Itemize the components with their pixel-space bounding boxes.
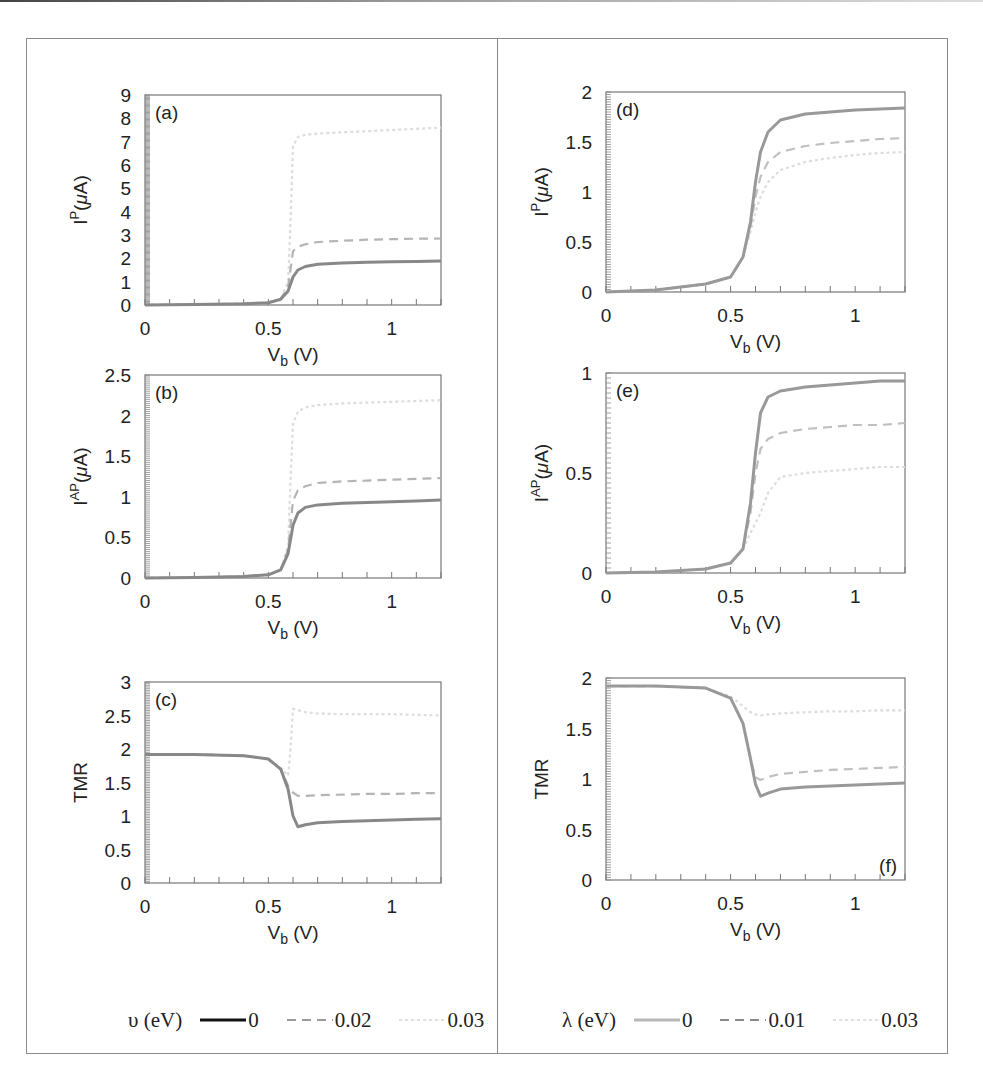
y-tick-label: 1 bbox=[120, 487, 131, 508]
legend-label: 0.03 bbox=[881, 1008, 918, 1033]
legend-title: λ (eV) bbox=[562, 1008, 616, 1033]
x-tick-label: 0.5 bbox=[717, 586, 743, 607]
legend-left: υ (eV) 00.020.03 bbox=[128, 1005, 510, 1035]
y-axis-title: TMR bbox=[531, 758, 552, 799]
legend-entry: 0 bbox=[632, 1008, 693, 1033]
legend-label: 0 bbox=[248, 1008, 259, 1033]
chart-panel-f: 00.5100.511.52Vb (V)TMR(f) bbox=[526, 666, 913, 950]
x-tick-label: 0 bbox=[601, 893, 612, 914]
y-tick-label: 2.5 bbox=[105, 365, 131, 386]
y-tick-label: 0 bbox=[120, 295, 131, 316]
x-tick-label: 0 bbox=[140, 896, 151, 917]
y-tick-label: 6 bbox=[120, 155, 131, 176]
chart-panel-c: 00.5100.511.522.53Vb (V)TMR(c) bbox=[65, 670, 449, 953]
y-tick-label: 0.5 bbox=[105, 527, 131, 548]
x-tick-label: 0 bbox=[140, 318, 151, 339]
chart-panel-a: 00.510123456789Vb (V)IP(μA)(a) bbox=[65, 83, 449, 375]
y-tick-label: 1 bbox=[581, 769, 592, 790]
y-tick-label: 5 bbox=[120, 178, 131, 199]
legend-swatch-icon bbox=[285, 1015, 335, 1025]
panel-label: (a) bbox=[155, 102, 178, 123]
x-tick-label: 0.5 bbox=[255, 591, 281, 612]
x-tick-label: 0 bbox=[140, 591, 151, 612]
y-tick-label: 0 bbox=[120, 873, 131, 894]
y-axis-title: IAP(μA) bbox=[67, 447, 91, 505]
chart-panel-e: 00.5100.51Vb (V)IAP(μA)(e) bbox=[526, 361, 913, 643]
x-tick-label: 1 bbox=[386, 318, 397, 339]
legend-swatch-icon bbox=[831, 1015, 881, 1025]
y-tick-label: 1 bbox=[120, 272, 131, 293]
x-axis-title: Vb (V) bbox=[730, 919, 781, 944]
y-tick-label: 4 bbox=[120, 202, 131, 223]
y-tick-label: 0 bbox=[581, 870, 592, 891]
x-tick-label: 0.5 bbox=[255, 896, 281, 917]
x-tick-label: 0.5 bbox=[717, 893, 743, 914]
legend-entry: 0.03 bbox=[397, 1008, 484, 1033]
x-tick-label: 1 bbox=[386, 591, 397, 612]
x-tick-label: 1 bbox=[850, 305, 861, 326]
x-axis-title: Vb (V) bbox=[730, 612, 781, 637]
panel-label: (d) bbox=[616, 99, 639, 120]
y-tick-label: 1 bbox=[581, 363, 592, 384]
y-tick-label: 2 bbox=[120, 248, 131, 269]
y-tick-label: 3 bbox=[120, 672, 131, 693]
legend-right: λ (eV) 00.010.03 bbox=[562, 1005, 944, 1035]
chart-panel-d: 00.5100.511.52Vb (V)IP(μA)(d) bbox=[526, 80, 913, 362]
y-tick-label: 8 bbox=[120, 108, 131, 129]
plot-area bbox=[606, 373, 905, 573]
legend-entry: 0.02 bbox=[285, 1008, 372, 1033]
legend-label: 0 bbox=[682, 1008, 693, 1033]
y-tick-label: 2 bbox=[581, 82, 592, 103]
plot-area bbox=[145, 375, 441, 578]
x-tick-label: 1 bbox=[386, 896, 397, 917]
y-tick-label: 0.5 bbox=[566, 820, 592, 841]
legend-swatch-icon bbox=[632, 1015, 682, 1025]
y-tick-label: 0 bbox=[581, 563, 592, 584]
y-tick-label: 0 bbox=[581, 282, 592, 303]
y-tick-label: 1 bbox=[120, 806, 131, 827]
x-tick-label: 1 bbox=[850, 893, 861, 914]
x-tick-label: 0 bbox=[601, 586, 612, 607]
column-divider bbox=[497, 38, 498, 1054]
y-tick-label: 1.5 bbox=[105, 446, 131, 467]
y-tick-label: 2 bbox=[120, 739, 131, 760]
legend-label: 0.01 bbox=[768, 1008, 805, 1033]
y-tick-label: 2 bbox=[120, 406, 131, 427]
legend-entry: 0.01 bbox=[718, 1008, 805, 1033]
legend-entry: 0 bbox=[198, 1008, 259, 1033]
legend-label: 0.02 bbox=[335, 1008, 372, 1033]
plot-area bbox=[145, 682, 441, 883]
y-axis-title: IP(μA) bbox=[67, 175, 91, 225]
y-axis-title: IP(μA) bbox=[528, 167, 552, 217]
y-tick-label: 2.5 bbox=[105, 706, 131, 727]
x-axis-title: Vb (V) bbox=[267, 922, 318, 947]
legend-entry: 0.03 bbox=[831, 1008, 918, 1033]
chart-panel-b: 00.5100.511.522.5Vb (V)IAP(μA)(b) bbox=[65, 363, 449, 648]
y-tick-label: 7 bbox=[120, 132, 131, 153]
x-axis-title: Vb (V) bbox=[267, 617, 318, 642]
top-edge-line bbox=[0, 0, 983, 2]
y-tick-label: 2 bbox=[581, 668, 592, 689]
y-tick-label: 0.5 bbox=[105, 840, 131, 861]
x-axis-title: Vb (V) bbox=[730, 331, 781, 356]
plot-area bbox=[145, 95, 441, 305]
y-axis-title: TMR bbox=[70, 762, 91, 803]
legend-label: 0.03 bbox=[447, 1008, 484, 1033]
x-tick-label: 0.5 bbox=[255, 318, 281, 339]
panel-label: (c) bbox=[155, 689, 177, 710]
legend-swatch-icon bbox=[397, 1015, 447, 1025]
y-tick-label: 1.5 bbox=[566, 132, 592, 153]
legend-swatch-icon bbox=[718, 1015, 768, 1025]
legend-swatch-icon bbox=[198, 1015, 248, 1025]
y-tick-label: 9 bbox=[120, 85, 131, 106]
y-tick-label: 1.5 bbox=[566, 719, 592, 740]
panel-label: (f) bbox=[879, 855, 897, 876]
panel-label: (b) bbox=[155, 382, 178, 403]
x-tick-label: 1 bbox=[850, 586, 861, 607]
y-tick-label: 1 bbox=[581, 182, 592, 203]
y-tick-label: 0 bbox=[120, 568, 131, 589]
legend-title: υ (eV) bbox=[128, 1008, 182, 1033]
y-tick-label: 0.5 bbox=[566, 232, 592, 253]
y-tick-label: 3 bbox=[120, 225, 131, 246]
y-tick-label: 0.5 bbox=[566, 463, 592, 484]
